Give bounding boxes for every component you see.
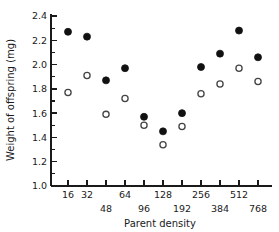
x-tick-label: 32 bbox=[81, 189, 93, 200]
plot-canvas: 1.01.21.41.61.82.02.22.4 163248649612819… bbox=[0, 0, 279, 232]
data-point-open bbox=[160, 142, 166, 148]
data-point-open bbox=[217, 81, 223, 87]
y-axis-title: Weight of offspring (mg) bbox=[5, 39, 16, 161]
x-tick-label: 64 bbox=[119, 189, 131, 200]
data-point-open bbox=[65, 89, 71, 95]
y-axis-tick-labels: 1.01.21.41.61.82.02.22.4 bbox=[32, 10, 47, 191]
scatter-plot-figure: 1.01.21.41.61.82.02.22.4 163248649612819… bbox=[0, 0, 279, 232]
data-point-filled bbox=[255, 54, 262, 61]
data-point-filled bbox=[198, 64, 205, 71]
axes bbox=[51, 14, 272, 186]
data-point-open bbox=[255, 78, 261, 84]
data-point-open bbox=[84, 72, 90, 78]
data-point-open bbox=[198, 91, 204, 97]
x-axis-title: Parent density bbox=[124, 218, 196, 229]
data-point-open bbox=[122, 95, 128, 101]
series-open-circles bbox=[65, 65, 261, 148]
data-point-filled bbox=[65, 28, 72, 35]
data-point-filled bbox=[236, 27, 243, 34]
x-tick-label: 384 bbox=[211, 203, 229, 214]
x-tick-label: 256 bbox=[192, 189, 210, 200]
data-point-filled bbox=[103, 77, 110, 84]
data-point-filled bbox=[217, 50, 224, 57]
data-point-filled bbox=[84, 33, 91, 40]
x-axis-ticks bbox=[68, 180, 258, 186]
data-point-open bbox=[236, 65, 242, 71]
x-tick-label: 16 bbox=[62, 189, 74, 200]
y-axis-ticks bbox=[51, 16, 57, 186]
x-tick-label: 128 bbox=[154, 189, 172, 200]
x-tick-label: 768 bbox=[249, 203, 267, 214]
y-tick-label: 1.6 bbox=[32, 108, 47, 119]
y-tick-label: 1.0 bbox=[32, 180, 47, 191]
x-tick-label: 192 bbox=[173, 203, 191, 214]
x-tick-label: 96 bbox=[138, 203, 150, 214]
y-tick-label: 1.8 bbox=[32, 83, 47, 94]
data-point-open bbox=[179, 123, 185, 129]
y-tick-label: 2.4 bbox=[32, 10, 47, 21]
x-tick-label: 512 bbox=[230, 189, 248, 200]
data-point-filled bbox=[122, 65, 129, 72]
series-filled-circles bbox=[65, 27, 262, 135]
y-tick-label: 1.2 bbox=[32, 156, 47, 167]
y-tick-label: 2.0 bbox=[32, 59, 47, 70]
y-tick-label: 1.4 bbox=[32, 132, 47, 143]
data-point-filled bbox=[141, 113, 148, 120]
data-point-filled bbox=[160, 128, 167, 135]
y-tick-label: 2.2 bbox=[32, 35, 47, 46]
data-point-open bbox=[103, 111, 109, 117]
data-point-filled bbox=[179, 110, 186, 117]
x-tick-label: 48 bbox=[100, 203, 112, 214]
x-axis-tick-labels: 1632486496128192256384512768 bbox=[62, 189, 267, 214]
data-point-open bbox=[141, 122, 147, 128]
